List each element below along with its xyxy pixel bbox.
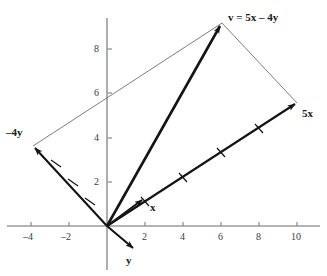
vector-unit-y-shaft	[107, 226, 133, 248]
construction-line-from-5x	[222, 23, 297, 103]
y-tick-label-6: 6	[94, 88, 99, 98]
plot-canvas	[0, 0, 327, 276]
vector-unit-x-shaft	[107, 200, 142, 226]
vector-5x	[107, 104, 295, 226]
x-tick-label-2: 2	[142, 232, 147, 242]
vector-label-x: x	[150, 202, 156, 213]
y-tick-label-2: 2	[94, 177, 99, 187]
vector-addition-figure: v = 5x – 4y 5x –4y x y –4 –2 2 4 6 8 10 …	[0, 0, 327, 276]
axis-lines	[7, 18, 320, 270]
vector-neg4y-shaft	[35, 148, 107, 226]
x-tick-label-8: 8	[256, 232, 261, 242]
y-tick-label-4: 4	[94, 133, 99, 143]
x-tick-label--4: –4	[23, 232, 33, 242]
x-tick-label-10: 10	[291, 232, 301, 242]
y-tick-label-8: 8	[94, 44, 99, 54]
vector-unit-y	[107, 226, 133, 248]
vector-label-5x: 5x	[302, 108, 313, 119]
vector-label-y: y	[126, 255, 132, 266]
vector-v	[107, 26, 220, 226]
vector-neg4y	[35, 148, 107, 226]
vector-5x-shaft	[107, 104, 295, 226]
vector-v-shaft	[107, 26, 220, 226]
vector-unit-x	[107, 200, 142, 226]
vector-label-neg4y: –4y	[6, 127, 23, 138]
construction-line-from-neg4y	[33, 23, 222, 146]
x-tick-label-4: 4	[180, 232, 185, 242]
x-tick-label--2: –2	[61, 232, 71, 242]
vector-label-v: v = 5x – 4y	[228, 12, 278, 23]
vector-neg4y-unit-ticks	[51, 160, 95, 205]
x-tick-label-6: 6	[218, 232, 223, 242]
